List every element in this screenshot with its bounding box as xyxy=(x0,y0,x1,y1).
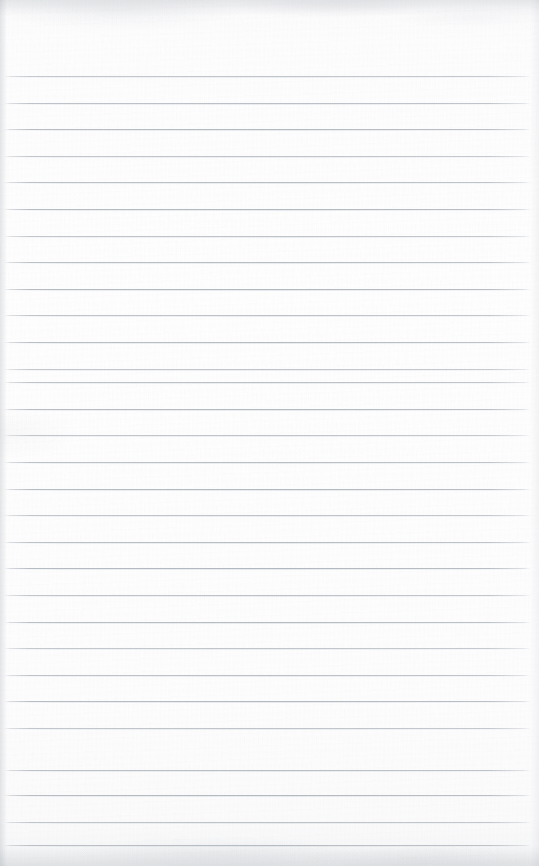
ruled-line xyxy=(4,822,531,823)
ruled-line xyxy=(4,76,531,77)
ruled-line xyxy=(4,542,531,543)
ruled-line xyxy=(4,289,531,290)
ruled-line xyxy=(4,701,531,702)
ruled-line xyxy=(4,129,531,130)
ruled-line xyxy=(4,770,531,771)
ruled-line xyxy=(4,435,531,436)
ruled-line xyxy=(4,648,531,649)
ruled-line xyxy=(4,209,531,210)
ruled-line xyxy=(4,262,531,263)
ruled-line xyxy=(4,675,531,676)
ruled-line xyxy=(4,409,531,410)
ruled-line xyxy=(4,236,531,237)
ruled-line xyxy=(4,622,531,623)
ruled-line xyxy=(4,568,531,569)
ruled-line xyxy=(4,342,531,343)
ruled-line xyxy=(4,795,531,796)
scanned-page xyxy=(0,0,539,866)
ruled-line xyxy=(4,382,531,383)
ruled-line xyxy=(4,315,531,316)
ruled-line xyxy=(4,369,531,370)
ruled-line xyxy=(4,462,531,463)
ruled-line xyxy=(4,156,531,157)
ruled-line xyxy=(4,515,531,516)
ruled-line xyxy=(4,845,531,846)
ruled-line xyxy=(4,103,531,104)
ruled-line xyxy=(4,489,531,490)
ruled-line xyxy=(4,728,531,729)
ruled-line xyxy=(4,182,531,183)
ruled-line xyxy=(4,595,531,596)
ruled-lines-layer xyxy=(0,0,539,866)
